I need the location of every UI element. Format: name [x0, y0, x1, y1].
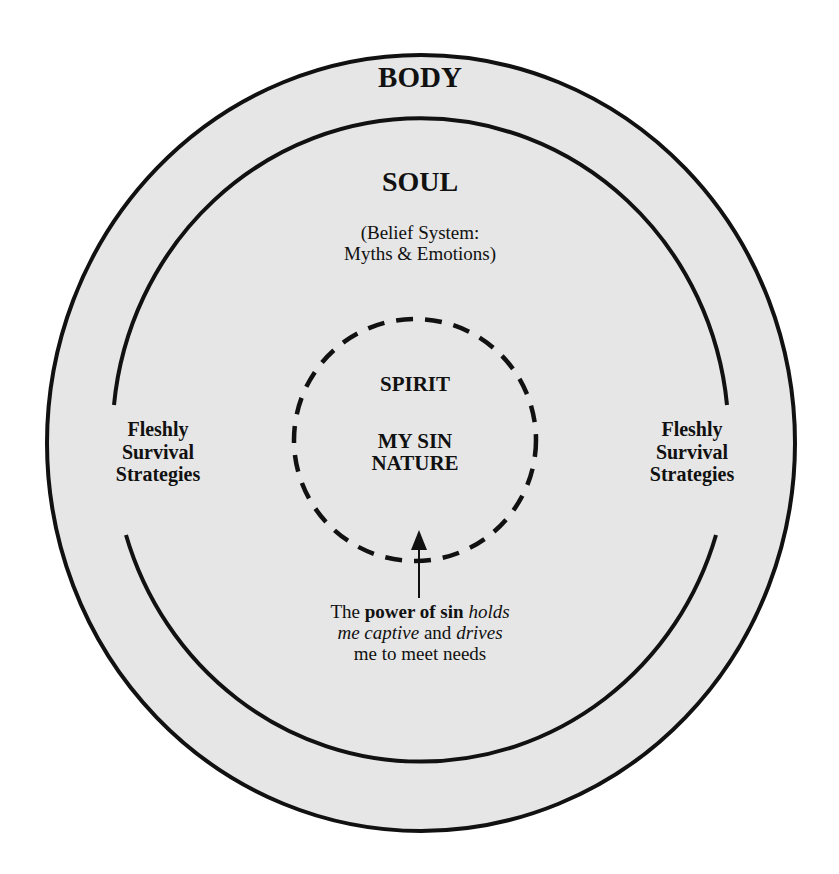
caption-italic-text: drives [456, 622, 502, 643]
fleshly-strategies-right: Fleshly Survival Strategies [622, 418, 762, 486]
soul-label: SOUL [320, 167, 520, 197]
caption-italic-text: me captive [337, 622, 419, 643]
fleshly-left-line3: Strategies [88, 463, 228, 486]
sin-nature-label: MY SIN NATURE [320, 430, 510, 474]
fleshly-left-line1: Fleshly [88, 418, 228, 441]
caption-text: and [419, 622, 456, 643]
caption-line1: The power of sin holds [285, 602, 555, 623]
arrow-caption: The power of sin holds me captive and dr… [285, 602, 555, 665]
fleshly-right-line3: Strategies [622, 463, 762, 486]
fleshly-left-line2: Survival [88, 441, 228, 464]
fleshly-right-line1: Fleshly [622, 418, 762, 441]
caption-italic-text: holds [468, 601, 509, 622]
caption-bold-text: power of sin [365, 601, 464, 622]
sin-nature-line1: MY SIN [320, 430, 510, 452]
caption-line3: me to meet needs [285, 644, 555, 665]
caption-line2: me captive and drives [285, 623, 555, 644]
spirit-label: SPIRIT [320, 373, 510, 396]
fleshly-strategies-left: Fleshly Survival Strategies [88, 418, 228, 486]
sin-nature-line2: NATURE [320, 452, 510, 474]
soul-description-line1: (Belief System: [300, 223, 540, 244]
fleshly-right-line2: Survival [622, 441, 762, 464]
soul-description: (Belief System: Myths & Emotions) [300, 223, 540, 265]
caption-text: The [330, 601, 364, 622]
body-label: BODY [320, 62, 520, 93]
soul-description-line2: Myths & Emotions) [300, 244, 540, 265]
